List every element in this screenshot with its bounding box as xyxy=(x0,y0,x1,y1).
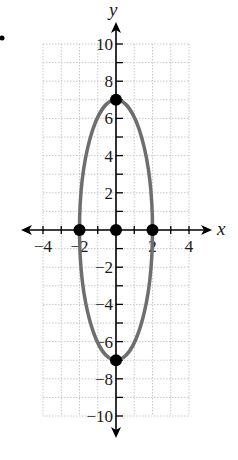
y-tick-label: 6 xyxy=(105,109,114,128)
y-tick-label: −4 xyxy=(95,295,114,314)
y-tick-label: −8 xyxy=(95,370,113,389)
point-vertex-top xyxy=(110,94,122,106)
point-center xyxy=(110,224,122,236)
y-tick-label: −2 xyxy=(95,258,113,277)
y-tick-label: 10 xyxy=(96,35,113,54)
y-tick-label: −10 xyxy=(86,407,113,426)
axes: xy xyxy=(21,0,226,438)
point-co-vertex-left xyxy=(74,224,86,236)
ellipse-graph: xy −4−224−10−8−6−4−2246810 xyxy=(0,0,238,460)
y-axis-label: y xyxy=(107,0,118,20)
point-vertex-bottom xyxy=(110,354,122,366)
x-axis-label: x xyxy=(216,218,226,239)
y-tick-label: 2 xyxy=(105,184,114,203)
point-co-vertex-right xyxy=(147,224,159,236)
x-tick-label: −4 xyxy=(34,237,53,256)
y-tick-label: 8 xyxy=(105,72,114,91)
y-tick-label: 4 xyxy=(105,147,114,166)
x-tick-label: 4 xyxy=(185,237,194,256)
problem-bullet xyxy=(0,36,5,41)
